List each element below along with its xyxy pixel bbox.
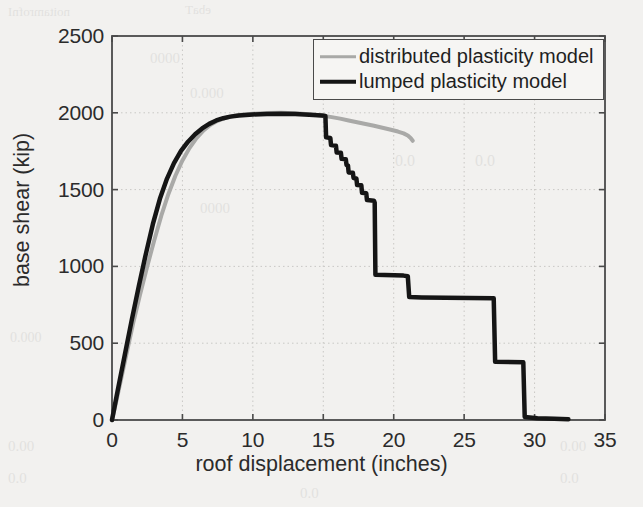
y-tick-label: 1500 — [58, 178, 104, 202]
legend-item-lumped[interactable]: lumped plasticity model — [320, 69, 597, 94]
y-tick-label: 0 — [93, 408, 104, 432]
legend[interactable]: distributed plasticity model lumped plas… — [313, 39, 604, 100]
x-tick-label: 0 — [106, 428, 117, 452]
y-axis-title-wrap: base shear (kip) — [0, 0, 44, 420]
x-tick-label: 30 — [523, 428, 546, 452]
y-tick-label: 1000 — [58, 254, 104, 278]
y-tick-label: 2500 — [58, 24, 104, 48]
y-axis-title: base shear (kip) — [10, 133, 35, 287]
x-tick-label: 15 — [312, 428, 335, 452]
y-tick-label: 2000 — [58, 101, 104, 125]
y-tick-label: 500 — [70, 331, 104, 355]
pushover-curve-figure: 05001000150020002500 05101520253035 base… — [0, 0, 643, 507]
legend-line-swatch-gray-icon — [320, 51, 356, 63]
x-tick-label: 25 — [453, 428, 476, 452]
x-tick-label: 5 — [177, 428, 188, 452]
legend-label-lumped: lumped plasticity model — [359, 71, 567, 92]
x-tick-label: 35 — [594, 428, 617, 452]
legend-label-distributed: distributed plasticity model — [359, 46, 594, 67]
x-tick-label: 20 — [382, 428, 405, 452]
x-tick-label: 10 — [241, 428, 264, 452]
x-axis-title: roof displacement (inches) — [0, 452, 643, 477]
legend-item-distributed[interactable]: distributed plasticity model — [320, 44, 597, 69]
legend-line-swatch-black-icon — [320, 76, 356, 88]
